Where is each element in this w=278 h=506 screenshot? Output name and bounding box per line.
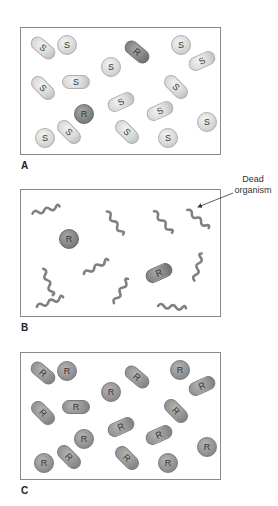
callout-arrow-icon <box>0 0 278 506</box>
resistant-organism-sphere: R <box>74 104 94 124</box>
sensitive-organism-sphere: S <box>35 128 55 148</box>
resistant-organism-rod: R <box>62 400 90 414</box>
resistant-organism-sphere: R <box>101 382 121 402</box>
sensitive-organism-sphere: S <box>171 35 191 55</box>
resistant-organism-sphere: R <box>59 229 79 249</box>
resistant-organism-sphere: R <box>170 360 190 380</box>
sensitive-organism-sphere: S <box>158 128 178 148</box>
resistant-organism-sphere: R <box>34 453 54 473</box>
sensitive-organism-sphere: S <box>197 112 217 132</box>
sensitive-organism-rod: S <box>62 75 90 89</box>
resistant-organism-sphere: R <box>197 437 217 457</box>
sensitive-organism-sphere: S <box>57 35 77 55</box>
sensitive-organism-sphere: S <box>101 57 121 77</box>
resistant-organism-sphere: R <box>57 361 77 381</box>
resistant-organism-sphere: R <box>74 429 94 449</box>
resistant-organism-sphere: R <box>158 453 178 473</box>
